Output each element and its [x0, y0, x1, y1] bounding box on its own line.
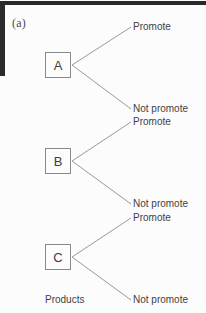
figure-panel: (a) A B C Promote Not promote Promote No…: [0, 0, 206, 313]
outcome-label-a-not-promote: Not promote: [133, 103, 188, 114]
outcome-label-a-promote: Promote: [133, 21, 171, 32]
product-node-b-label: B: [54, 154, 63, 169]
product-node-c-label: C: [53, 250, 62, 265]
branch-line-a-promote: [72, 27, 131, 65]
branch-line-a-not-promote: [72, 65, 131, 109]
product-node-a-label: A: [54, 58, 63, 73]
product-node-c[interactable]: C: [45, 244, 71, 270]
outcome-label-b-promote: Promote: [133, 116, 171, 127]
outcome-label-c-not-promote: Not promote: [133, 294, 188, 305]
product-node-b[interactable]: B: [45, 148, 71, 174]
branch-connector-lines: [0, 0, 206, 313]
outcome-label-b-not-promote: Not promote: [133, 198, 188, 209]
products-caption: Products: [45, 294, 84, 305]
product-node-a[interactable]: A: [45, 52, 71, 78]
branch-line-b-promote: [72, 122, 131, 161]
outcome-label-c-promote: Promote: [133, 212, 171, 223]
branch-line-b-not-promote: [72, 161, 131, 204]
branch-line-c-promote: [72, 218, 131, 257]
